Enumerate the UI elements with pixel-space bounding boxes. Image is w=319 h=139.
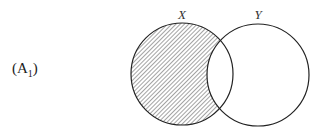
set-x-label: X (177, 7, 187, 22)
shaded-region-x-minus-y (0, 0, 319, 139)
venn-diagram: X Y (0, 0, 319, 139)
